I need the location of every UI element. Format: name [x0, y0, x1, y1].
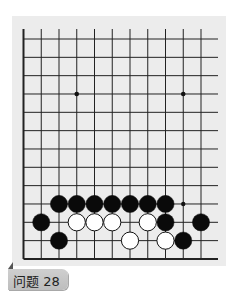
white-stone[interactable]: [104, 214, 121, 231]
star-point: [74, 92, 79, 97]
black-stone[interactable]: [175, 232, 192, 249]
black-stone[interactable]: [192, 214, 209, 231]
tab-corner-decoration: [8, 262, 13, 269]
black-stone[interactable]: [121, 195, 138, 212]
white-stone[interactable]: [157, 232, 174, 249]
black-stone[interactable]: [104, 195, 121, 212]
black-stone[interactable]: [86, 195, 103, 212]
black-stone[interactable]: [157, 195, 174, 212]
white-stone[interactable]: [121, 232, 138, 249]
black-stone[interactable]: [139, 195, 156, 212]
go-board[interactable]: [0, 0, 240, 296]
black-stone[interactable]: [157, 214, 174, 231]
white-stone[interactable]: [68, 214, 85, 231]
black-stone[interactable]: [33, 214, 50, 231]
star-point: [181, 92, 186, 97]
white-stone[interactable]: [139, 214, 156, 231]
black-stone[interactable]: [50, 232, 67, 249]
black-stone[interactable]: [50, 195, 67, 212]
problem-number-label: 问题 28: [13, 271, 60, 290]
black-stone[interactable]: [68, 195, 85, 212]
point-marker-dot: [181, 202, 185, 206]
problem-number-tab: 问题 28: [8, 269, 68, 290]
white-stone[interactable]: [86, 214, 103, 231]
